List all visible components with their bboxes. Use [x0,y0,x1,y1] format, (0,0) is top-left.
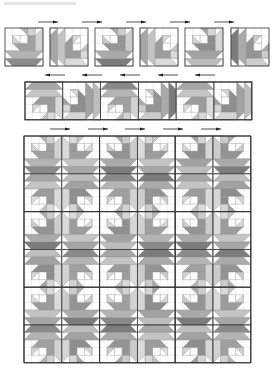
quilt-block-r1-c6 [213,136,251,174]
quilt-assembly-diagram [0,0,279,383]
press-direction-arrow-left [158,73,178,76]
quilt-block-r6-c5 [175,325,213,363]
quilt-block-r3-c3 [100,212,138,250]
quilt-block-r3-c5 [175,212,213,250]
quilt-block-r4-c4 [137,249,175,287]
quilt-block-r6-c4 [137,325,175,363]
top-block-5 [185,28,223,66]
press-direction-arrow-right [125,127,145,130]
quilt-block-r5-c1 [24,287,62,325]
quilt-block-r4-c2 [62,249,100,287]
quilt-block-r5-c3 [100,287,138,325]
quilt-block-r6-c3 [100,325,138,363]
quilt-block-r2-c1 [24,174,62,212]
quilt-block-r4-c6 [213,249,251,287]
quilt-block-r6-c6 [213,325,251,363]
top-block-2 [50,28,88,66]
quilt-block-r3-c4 [137,212,175,250]
top-block-4 [140,28,178,66]
press-direction-arrow-left [120,73,140,76]
press-direction-arrow-right [82,20,102,23]
quilt-block-r5-c6 [213,287,251,325]
press-direction-arrow-right [126,20,146,23]
quilt-block-r5-c5 [175,287,213,325]
quilt-block-r3-c6 [213,212,251,250]
strip-block-3 [101,82,139,120]
quilt-block-r5-c4 [137,287,175,325]
quilt-block-r4-c5 [175,249,213,287]
assembled-quilt-grid [24,136,251,363]
press-direction-arrow-left [45,73,65,76]
quilt-block-r6-c2 [62,325,100,363]
strip-block-6 [214,82,252,120]
quilt-block-r2-c4 [137,174,175,212]
strip-block-5 [176,82,214,120]
press-direction-arrow-left [195,73,215,76]
quilt-block-r1-c2 [62,136,100,174]
press-direction-arrow-right [163,127,183,130]
quilt-block-r3-c2 [62,212,100,250]
joined-row-strip [25,82,252,120]
press-direction-arrow-right [38,20,58,23]
strip-block-4 [138,82,176,120]
quilt-block-r2-c3 [100,174,138,212]
press-direction-arrow-right [50,127,70,130]
top-block-6 [231,28,269,66]
quilt-block-r1-c5 [175,136,213,174]
press-direction-arrow-right [170,20,190,23]
quilt-block-r6-c1 [24,325,62,363]
quilt-block-r2-c5 [175,174,213,212]
strip-block-2 [63,82,101,120]
quilt-block-r2-c2 [62,174,100,212]
quilt-block-r3-c1 [24,212,62,250]
press-direction-arrow-right [201,127,221,130]
quilt-block-r4-c1 [24,249,62,287]
top-block-1 [5,28,43,66]
top-block-3 [95,28,133,66]
quilt-block-r4-c3 [100,249,138,287]
quilt-block-r1-c1 [24,136,62,174]
top-row-blocks [5,28,269,66]
quilt-block-r1-c4 [137,136,175,174]
press-direction-arrow-left [82,73,102,76]
quilt-block-r2-c6 [213,174,251,212]
quilt-block-r5-c2 [62,287,100,325]
press-direction-arrow-right [88,127,108,130]
press-direction-arrow-right [214,20,234,23]
strip-block-1 [25,82,63,120]
quilt-block-r1-c3 [100,136,138,174]
strip-press-arrows [50,127,221,130]
